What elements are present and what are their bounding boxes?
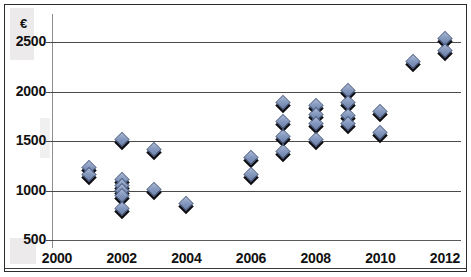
x-tick-label-2008: 2008 xyxy=(290,250,342,266)
x-tick-label-2000: 2000 xyxy=(31,250,83,266)
x-tick-label-2004: 2004 xyxy=(160,250,212,266)
y-tick-label-500: 500 xyxy=(2,231,46,247)
gridline-500 xyxy=(53,240,461,241)
y-tick-label-1500: 1500 xyxy=(2,132,46,148)
x-tick-label-2012: 2012 xyxy=(419,250,471,266)
y-tick-2500 xyxy=(46,42,54,43)
y-axis-labels: 5001000150020002500 xyxy=(0,0,46,277)
y-tick-label-2500: 2500 xyxy=(2,33,46,49)
y-axis-line xyxy=(52,14,53,248)
x-tick-label-2002: 2002 xyxy=(96,250,148,266)
x-axis-rule xyxy=(5,268,466,269)
gridline-2500 xyxy=(53,42,461,43)
y-tick-label-2000: 2000 xyxy=(2,83,46,99)
y-tick-label-1000: 1000 xyxy=(2,182,46,198)
scatter-chart: € 5001000150020002500 200020022004200620… xyxy=(0,0,471,277)
y-tick-1500 xyxy=(46,141,54,142)
gridline-2000 xyxy=(53,92,461,93)
x-tick-label-2006: 2006 xyxy=(225,250,277,266)
y-tick-2000 xyxy=(46,92,54,93)
x-tick-label-2010: 2010 xyxy=(354,250,406,266)
y-tick-500 xyxy=(46,240,54,241)
y-tick-1000 xyxy=(46,191,54,192)
chart-frame xyxy=(4,4,467,272)
